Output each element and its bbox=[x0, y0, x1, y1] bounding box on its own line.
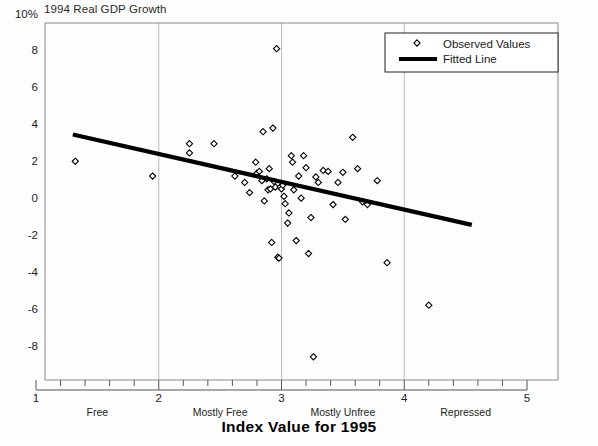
data-point-diamond bbox=[330, 202, 336, 208]
data-point-diamond bbox=[253, 159, 259, 165]
x-category-label-mostly-unfree: Mostly Unfree bbox=[288, 406, 398, 418]
y-tick-label--8: -8 bbox=[12, 340, 38, 352]
x-tick-label-4: 4 bbox=[389, 392, 419, 404]
data-point-diamond bbox=[289, 159, 295, 165]
x-tick-label-5: 5 bbox=[512, 392, 542, 404]
x-category-label-mostly-free: Mostly Free bbox=[165, 406, 275, 418]
data-point-diamond bbox=[269, 239, 275, 245]
data-point-diamond bbox=[310, 354, 316, 360]
data-point-diamond bbox=[150, 173, 156, 179]
y-tick-label--4: -4 bbox=[12, 266, 38, 278]
y-tick-label-6: 6 bbox=[12, 81, 38, 93]
data-point-diamond bbox=[350, 134, 356, 140]
data-point-diamond bbox=[211, 141, 217, 147]
y-tick-label-4: 4 bbox=[12, 118, 38, 130]
data-point-diamond bbox=[305, 250, 311, 256]
data-point-diamond bbox=[270, 125, 276, 131]
data-point-diamond bbox=[186, 150, 192, 156]
x-tick-label-1: 1 bbox=[21, 392, 51, 404]
data-point-diamond bbox=[298, 195, 304, 201]
data-point-diamond bbox=[285, 220, 291, 226]
y-tick-label-8: 8 bbox=[12, 44, 38, 56]
data-point-diamond bbox=[261, 198, 267, 204]
gdp-growth-scatter-figure: 1994 Real GDP Growth 10%86420-2-4-6-8 12… bbox=[0, 0, 598, 446]
data-point-diamond bbox=[260, 129, 266, 135]
legend-label-fitted-line: Fitted Line bbox=[443, 53, 497, 65]
data-point-diamond bbox=[374, 178, 380, 184]
y-tick-label-2: 2 bbox=[12, 155, 38, 167]
data-point-diamond bbox=[242, 179, 248, 185]
data-point-diamond bbox=[291, 187, 297, 193]
y-tick-label--6: -6 bbox=[12, 303, 38, 315]
data-point-diamond bbox=[246, 190, 252, 196]
data-point-diamond bbox=[342, 216, 348, 222]
data-point-diamond bbox=[282, 201, 288, 207]
data-point-diamond bbox=[384, 260, 390, 266]
data-point-diamond bbox=[286, 210, 292, 216]
data-point-diamond bbox=[335, 179, 341, 185]
data-point-diamond bbox=[426, 302, 432, 308]
x-category-label-repressed: Repressed bbox=[411, 406, 521, 418]
data-point-diamond bbox=[288, 153, 294, 159]
y-tick-label-10: 10% bbox=[12, 8, 38, 20]
fitted-line bbox=[73, 135, 472, 225]
data-point-diamond bbox=[355, 166, 361, 172]
x-tick-label-2: 2 bbox=[144, 392, 174, 404]
fitted-regression-line bbox=[73, 135, 472, 225]
data-point-diamond bbox=[273, 46, 279, 52]
data-point-diamond bbox=[293, 237, 299, 243]
data-point-diamond bbox=[72, 158, 78, 164]
data-point-diamond bbox=[325, 168, 331, 174]
legend-label-observed-values: Observed Values bbox=[443, 38, 530, 50]
x-category-label-free: Free bbox=[42, 406, 152, 418]
x-axis-title: Index Value for 1995 bbox=[0, 418, 598, 436]
data-point-diamond bbox=[296, 173, 302, 179]
data-point-diamond bbox=[186, 141, 192, 147]
y-tick-label-0: 0 bbox=[12, 192, 38, 204]
y-tick-label--2: -2 bbox=[12, 229, 38, 241]
data-point-diamond bbox=[303, 165, 309, 171]
data-point-diamond bbox=[300, 153, 306, 159]
data-point-diamond bbox=[340, 169, 346, 175]
data-point-diamond bbox=[308, 214, 314, 220]
plot-canvas bbox=[0, 0, 598, 446]
x-tick-label-3: 3 bbox=[267, 392, 297, 404]
data-point-diamond bbox=[266, 166, 272, 172]
